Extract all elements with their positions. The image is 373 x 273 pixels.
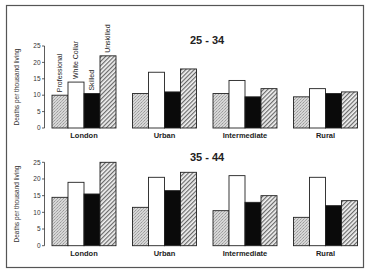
legend-label: Unskilled: [105, 24, 112, 53]
y-axis-label: Deaths per thousand living: [13, 165, 21, 242]
category-label: London: [70, 249, 98, 258]
bar-skilled: [245, 97, 261, 128]
y-tick-label: 25: [33, 159, 41, 166]
legend-label: Professional: [57, 53, 64, 92]
y-tick-label: 25: [33, 42, 41, 49]
y-tick-label: 5: [37, 108, 41, 115]
bar-white-collar: [68, 82, 84, 128]
bar-skilled: [165, 92, 181, 128]
category-label: Urban: [154, 131, 176, 140]
y-tick-label: 10: [33, 209, 41, 216]
bar-unskilled: [342, 201, 358, 246]
category-label: London: [70, 131, 98, 140]
bar-white-collar: [310, 89, 326, 128]
bar-white-collar: [149, 72, 165, 128]
bar-unskilled: [181, 172, 197, 245]
y-tick-label: 0: [37, 124, 41, 131]
category-label: Urban: [154, 249, 176, 258]
bar-professional: [133, 94, 149, 128]
legend-label: White Collar: [73, 40, 80, 79]
y-tick-label: 0: [37, 242, 41, 249]
bar-skilled: [84, 194, 100, 246]
bar-unskilled: [261, 89, 277, 128]
y-tick-label: 10: [33, 91, 41, 98]
panel-title: 35 - 44: [190, 151, 225, 163]
bar-professional: [213, 94, 229, 128]
bar-skilled: [326, 94, 342, 128]
bar-professional: [133, 207, 149, 245]
y-tick-label: 20: [33, 175, 41, 182]
category-label: Rural: [316, 131, 335, 140]
y-tick-label: 15: [33, 192, 41, 199]
bar-professional: [52, 95, 68, 128]
bar-skilled: [245, 202, 261, 245]
bar-unskilled: [342, 92, 358, 128]
category-label: Intermediate: [223, 249, 268, 258]
bar-professional: [294, 97, 310, 128]
legend-label: Skilled: [89, 70, 96, 91]
bar-skilled: [84, 94, 100, 128]
bar-professional: [52, 197, 68, 245]
bar-unskilled: [100, 56, 116, 128]
y-axis-label: Deaths per thousand living: [13, 48, 21, 125]
bar-unskilled: [261, 196, 277, 246]
y-tick-label: 5: [37, 225, 41, 232]
bar-white-collar: [229, 176, 245, 246]
y-tick-label: 20: [33, 59, 41, 66]
category-label: Rural: [316, 249, 335, 258]
bar-unskilled: [100, 162, 116, 245]
panel-title: 25 - 34: [190, 34, 225, 46]
bar-white-collar: [149, 177, 165, 245]
bar-unskilled: [181, 69, 197, 128]
bar-skilled: [326, 206, 342, 246]
y-tick-label: 15: [33, 75, 41, 82]
mortality-chart: 25 - 340510152025Deaths per thousand liv…: [0, 0, 373, 273]
bar-white-collar: [68, 182, 84, 245]
bar-white-collar: [229, 80, 245, 128]
category-label: Intermediate: [223, 131, 268, 140]
bar-skilled: [165, 191, 181, 246]
bar-professional: [213, 211, 229, 246]
bar-professional: [294, 217, 310, 245]
bar-white-collar: [310, 177, 326, 245]
